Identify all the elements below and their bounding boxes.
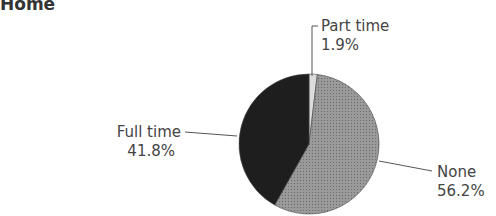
value-none: 56.2% <box>437 182 485 200</box>
label-full-time: Full time <box>117 123 181 141</box>
leader-line-full-time <box>185 132 237 136</box>
leader-line-none <box>379 161 432 171</box>
label-none: None <box>437 163 476 181</box>
leader-line-part-time <box>312 26 318 76</box>
value-full-time: 41.8% <box>127 142 175 160</box>
label-part-time: Part time <box>321 17 389 35</box>
pie-chart: Part time 1.9% Full time 41.8% None 56.2… <box>0 0 496 216</box>
value-part-time: 1.9% <box>321 36 359 54</box>
